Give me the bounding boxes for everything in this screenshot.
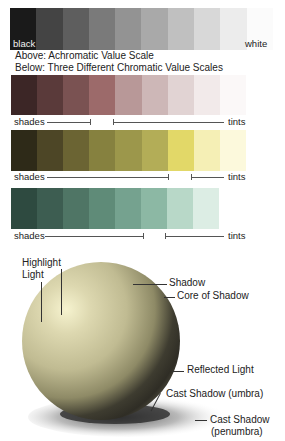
label-core-of-shadow: Core of Shadow xyxy=(177,290,249,302)
caption-above: Above: Achromatic Value Scale xyxy=(15,50,154,62)
label-reflected-light: Reflected Light xyxy=(187,364,254,376)
achromatic-swatch-6 xyxy=(141,8,167,50)
achromatic-swatch-8 xyxy=(194,8,220,50)
red-shades-line xyxy=(47,122,90,123)
label-cast-shadow-penumbra-2: (penumbra) xyxy=(211,426,263,438)
yellow-swatch-8 xyxy=(194,130,220,171)
achromatic-swatch-7 xyxy=(168,8,194,50)
red-shades-label: shades xyxy=(14,116,45,127)
yellow-swatch-6 xyxy=(142,130,168,171)
red-value-scale xyxy=(11,75,246,115)
yellow-swatch-2 xyxy=(37,130,63,171)
achromatic-swatch-5 xyxy=(115,8,141,50)
label-cast-shadow-umbra: Cast Shadow (umbra) xyxy=(166,388,263,400)
red-swatch-9 xyxy=(220,75,246,115)
red-tints-line xyxy=(113,122,224,123)
yellow-shades-tick xyxy=(168,174,169,180)
label-light: Light xyxy=(22,269,44,281)
sphere xyxy=(22,262,180,420)
red-swatch-8 xyxy=(194,75,220,115)
green-tints-label: tints xyxy=(228,230,245,241)
green-swatch-3 xyxy=(63,188,89,229)
label-shadow: Shadow xyxy=(169,277,205,289)
label-white: white xyxy=(245,38,267,49)
red-swatch-4 xyxy=(89,75,115,115)
yellow-swatch-3 xyxy=(63,130,89,171)
green-swatch-4 xyxy=(89,188,115,229)
leader-cast-shadow-penumbra xyxy=(195,420,207,421)
yellow-swatch-4 xyxy=(89,130,115,171)
green-swatch-2 xyxy=(37,188,63,229)
leader-light xyxy=(41,282,42,322)
achromatic-value-scale xyxy=(10,8,273,50)
leader-shadow xyxy=(133,284,167,285)
red-swatch-6 xyxy=(142,75,168,115)
red-swatch-5 xyxy=(115,75,141,115)
yellow-tints-label: tints xyxy=(228,171,245,182)
yellow-shades-line xyxy=(47,177,168,178)
green-shades-label: shades xyxy=(14,230,45,241)
achromatic-swatch-4 xyxy=(89,8,115,50)
green-swatch-1 xyxy=(11,188,37,229)
green-swatch-7 xyxy=(167,188,193,229)
green-swatch-8 xyxy=(193,188,219,229)
leader-core-of-shadow xyxy=(164,297,175,298)
leader-highlight xyxy=(61,269,62,315)
green-tints-line xyxy=(165,236,224,237)
green-swatch-6 xyxy=(141,188,167,229)
caption-below: Below: Three Different Chromatic Value S… xyxy=(15,62,223,74)
yellow-tints-line xyxy=(191,177,224,178)
achromatic-swatch-3 xyxy=(63,8,89,50)
green-value-scale xyxy=(11,188,219,229)
red-tints-label: tints xyxy=(228,116,245,127)
achromatic-swatch-2 xyxy=(36,8,62,50)
red-swatch-7 xyxy=(168,75,194,115)
red-shades-tick xyxy=(90,119,91,125)
green-shades-tick xyxy=(143,233,144,239)
yellow-swatch-1 xyxy=(11,130,37,171)
yellow-swatch-7 xyxy=(168,130,194,171)
label-cast-shadow-penumbra-1: Cast Shadow xyxy=(210,414,269,426)
label-highlight: Highlight xyxy=(22,257,61,269)
green-shades-line xyxy=(45,236,143,237)
red-swatch-3 xyxy=(63,75,89,115)
red-swatch-1 xyxy=(11,75,37,115)
leader-reflected-light xyxy=(172,371,184,372)
yellow-shades-label: shades xyxy=(14,171,45,182)
achromatic-swatch-9 xyxy=(220,8,246,50)
yellow-swatch-9 xyxy=(220,130,246,171)
label-black: black xyxy=(13,38,35,49)
yellow-swatch-5 xyxy=(115,130,141,171)
green-swatch-5 xyxy=(115,188,141,229)
red-swatch-2 xyxy=(37,75,63,115)
yellow-value-scale xyxy=(11,130,246,171)
